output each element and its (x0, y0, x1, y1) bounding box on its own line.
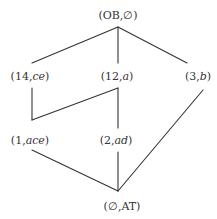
node-intent: b (200, 70, 207, 83)
node-2-label: (2,ad) (100, 135, 133, 146)
node-extent: 14 (15, 70, 29, 83)
paren-close: ) (128, 134, 132, 147)
node-bottom-label: (∅,AT) (104, 201, 141, 212)
node-intent: ce (32, 70, 45, 83)
node-extent: OB (103, 9, 120, 22)
node-intent: AT (121, 200, 136, 213)
paren-close: ) (45, 134, 49, 147)
node-extent: ∅ (108, 200, 118, 213)
node-14-label: (14,ce) (11, 71, 50, 82)
paren-close: ) (129, 70, 133, 83)
node-intent: ace (26, 134, 45, 147)
edge-top-n3 (118, 27, 187, 63)
paren-close: ) (207, 70, 211, 83)
paren-close: ) (45, 70, 49, 83)
edge-top-n14 (32, 27, 118, 63)
node-1-label: (1,ace) (11, 135, 49, 146)
edge-n1-bottom (32, 150, 118, 191)
edge-n12-n1 (32, 88, 118, 120)
node-12-label: (12,a) (101, 71, 134, 82)
node-3-label: (3,b) (185, 71, 211, 82)
paren-close: ) (136, 200, 140, 213)
node-intent: ∅ (123, 9, 133, 22)
node-extent: 12 (105, 70, 119, 83)
node-top-label: (OB,∅) (98, 10, 137, 21)
edges-layer (0, 0, 217, 219)
lattice-diagram: (OB,∅) (14,ce) (12,a) (3,b) (1,ace) (2,a… (0, 0, 217, 219)
node-intent: ad (114, 134, 128, 147)
paren-close: ) (133, 9, 137, 22)
